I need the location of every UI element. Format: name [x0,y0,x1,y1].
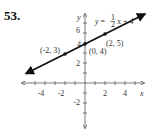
y-tick-label: 6 [76,26,80,35]
x-axis: -4 -2 2 4 x [22,81,144,98]
y-axis: 6 4 2 -2 y [73,13,87,128]
x-axis-label: x [139,89,144,98]
svg-text:x + 4: x + 4 [117,17,134,26]
point-label: (-2, 3) [40,46,60,55]
point-marker [83,42,87,46]
x-tick-label: 2 [103,89,107,98]
x-tick-label: 4 [123,89,127,98]
y-tick-label: 2 [76,59,80,68]
point-label: (0, 4) [89,47,107,56]
y-axis-label: y [76,13,81,22]
svg-text:2: 2 [111,20,115,29]
graph: -4 -2 2 4 x 6 4 2 -2 y (-2, 3) (0, 4) (2… [0,0,153,130]
point-marker [103,32,107,36]
x-tick-label: -4 [38,89,45,98]
svg-text:y =: y = [94,17,106,26]
point-marker [63,52,67,56]
x-tick-label: -2 [58,89,65,98]
y-tick-label: -2 [73,98,80,107]
point-label: (2, 5) [106,39,124,48]
equation-label: y = 1 2 x + 4 [94,13,134,29]
